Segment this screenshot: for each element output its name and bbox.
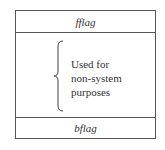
desc-line-2: non-system: [71, 71, 122, 85]
curly-brace-icon: [54, 40, 64, 112]
structure-box: fflag Used for non-system purposes bflag: [15, 10, 156, 139]
desc-line-3: purposes: [71, 85, 122, 99]
fflag-label: fflag: [75, 16, 95, 28]
middle-description: Used for non-system purposes: [71, 57, 122, 99]
bflag-label: bflag: [74, 122, 97, 134]
desc-line-1: Used for: [71, 57, 122, 71]
fflag-field: fflag: [16, 11, 155, 33]
bflag-field: bflag: [16, 117, 155, 138]
